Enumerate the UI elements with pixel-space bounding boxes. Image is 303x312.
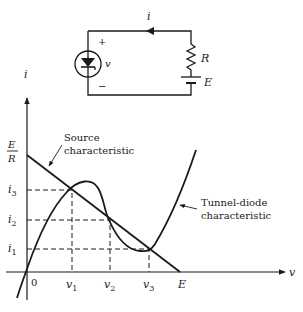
tunnel-diode-diagram: i + − v R E i v 0 E R i3 i2 i1 v1 v2 v3 … xyxy=(0,0,303,312)
source-characteristic-line xyxy=(27,155,180,272)
circuit-current-label: i xyxy=(147,10,151,23)
x-tick-v1: v1 xyxy=(66,278,77,293)
circuit-plus-label: + xyxy=(98,36,106,47)
circuit-minus-label: − xyxy=(98,81,106,92)
x-tick-v3: v3 xyxy=(143,278,154,293)
origin-label: 0 xyxy=(31,277,37,288)
y-axis-label: i xyxy=(24,68,28,81)
source-annotation-line1: Source xyxy=(64,132,100,143)
diode-annotation-line1: Tunnel-diode xyxy=(201,197,268,208)
circuit-voltage-label: v xyxy=(105,58,111,69)
current-arrow-icon xyxy=(146,27,154,35)
source-pointer-arrow xyxy=(49,145,62,166)
x-tick-v2: v2 xyxy=(104,278,115,293)
x-tick-e: E xyxy=(177,278,186,291)
source-annotation-line2: characteristic xyxy=(64,145,135,156)
circuit xyxy=(75,27,201,95)
diode-pointer-arrow xyxy=(180,205,197,209)
circuit-resistor-label: R xyxy=(200,52,209,65)
y-tick-i3: i3 xyxy=(8,183,17,198)
y-tick-er-numerator: E xyxy=(7,139,16,150)
diode-annotation-line2: characteristic xyxy=(201,210,272,221)
circuit-source-label: E xyxy=(203,76,212,89)
y-tick-i1: i1 xyxy=(8,242,17,257)
y-tick-i2: i2 xyxy=(8,213,17,228)
x-axis-label: v xyxy=(289,266,296,279)
y-tick-er-denominator: R xyxy=(7,153,16,164)
resistor-icon xyxy=(187,44,195,73)
tunnel-diode-curve xyxy=(17,150,196,298)
